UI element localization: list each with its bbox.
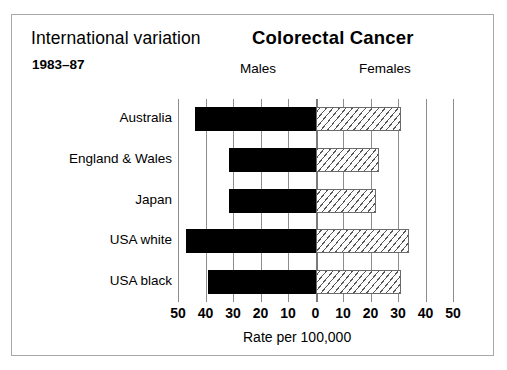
x-tick-label: 40 <box>418 305 434 321</box>
x-tick-label: 30 <box>225 305 241 321</box>
bar-female <box>316 107 401 131</box>
bar-female <box>316 229 410 253</box>
chart-figure: International variation Colorectal Cance… <box>11 14 494 356</box>
bar-male <box>229 189 316 213</box>
x-axis-line <box>178 302 454 303</box>
gridline <box>178 99 179 302</box>
chart-subtitle-left: International variation <box>31 28 201 49</box>
gridline <box>426 99 427 302</box>
category-label: England & Wales <box>69 151 172 166</box>
x-tick-label: 30 <box>390 305 406 321</box>
chart-title: Colorectal Cancer <box>252 27 414 49</box>
bar-male <box>195 107 316 131</box>
x-tick-label: 20 <box>363 305 379 321</box>
chart-axes <box>178 99 453 302</box>
gridline <box>453 99 454 302</box>
category-label: USA white <box>110 232 172 247</box>
chart-header: International variation Colorectal Cance… <box>12 15 493 93</box>
bar-female <box>316 270 401 294</box>
bar-female <box>316 148 379 172</box>
bar-male <box>208 270 315 294</box>
x-tick-label: 50 <box>445 305 461 321</box>
panel-header-females: Females <box>359 61 411 76</box>
x-tick-label: 0 <box>312 305 320 321</box>
x-axis-title: Rate per 100,000 <box>243 329 351 345</box>
x-tick-label: 10 <box>335 305 351 321</box>
bar-female <box>316 189 377 213</box>
bar-male <box>186 229 315 253</box>
category-label: USA black <box>110 273 172 288</box>
category-label: Japan <box>135 192 172 207</box>
chart-plot-area: AustraliaEngland & WalesJapanUSA whiteUS… <box>12 93 493 355</box>
x-tick-label: 50 <box>170 305 186 321</box>
category-label: Australia <box>119 110 172 125</box>
x-tick-label: 20 <box>253 305 269 321</box>
x-tick-label: 40 <box>198 305 214 321</box>
bar-male <box>229 148 316 172</box>
chart-years-label: 1983–87 <box>32 57 85 72</box>
x-tick-label: 10 <box>280 305 296 321</box>
category-label-column: AustraliaEngland & WalesJapanUSA whiteUS… <box>12 99 172 302</box>
panel-header-males: Males <box>240 61 276 76</box>
